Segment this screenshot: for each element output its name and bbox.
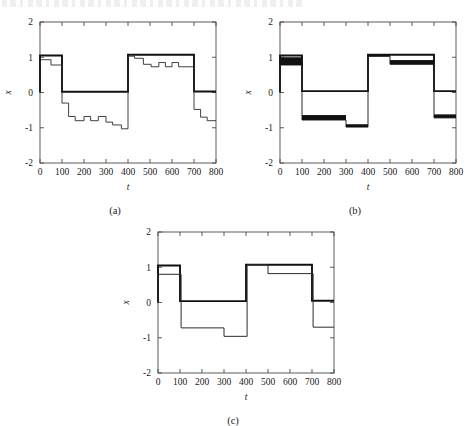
subplot-a: 0100200300400500600700800-2-1012tx(a) xyxy=(0,8,230,203)
x-tick-label: 700 xyxy=(427,167,442,177)
x-tick-label: 400 xyxy=(361,167,376,177)
series-band-segment xyxy=(302,115,346,120)
x-tick-label: 700 xyxy=(187,167,202,177)
y-tick-label: -1 xyxy=(143,333,151,343)
x-tick-label: 600 xyxy=(283,377,298,387)
series-band-segment xyxy=(368,55,390,57)
y-tick-label: 1 xyxy=(268,53,273,63)
x-tick-label: 600 xyxy=(405,167,420,177)
plot-c: 0100200300400500600700800-2-1012tx xyxy=(118,218,348,413)
y-tick-label: 2 xyxy=(28,17,33,27)
series-line-reference xyxy=(158,265,334,303)
x-tick-label: 500 xyxy=(383,167,398,177)
x-tick-label: 0 xyxy=(156,377,161,387)
x-tick-label: 700 xyxy=(305,377,320,387)
x-tick-label: 800 xyxy=(327,377,342,387)
x-tick-label: 200 xyxy=(317,167,332,177)
x-tick-label: 100 xyxy=(173,377,188,387)
x-tick-label: 400 xyxy=(239,377,254,387)
x-tick-label: 200 xyxy=(77,167,92,177)
y-tick-label: 1 xyxy=(28,53,33,63)
y-tick-label: 1 xyxy=(146,263,151,273)
plot-b: 0100200300400500600700800-2-1012tx xyxy=(240,8,470,203)
y-tick-label: -2 xyxy=(25,158,33,168)
x-tick-label: 800 xyxy=(449,167,464,177)
y-axis-label: x xyxy=(3,90,13,96)
y-tick-label: 2 xyxy=(146,227,151,237)
x-axis-label: t xyxy=(367,182,370,192)
y-tick-label: -1 xyxy=(25,123,33,133)
y-tick-label: -1 xyxy=(265,123,273,133)
x-tick-label: 100 xyxy=(55,167,70,177)
y-tick-label: -2 xyxy=(143,368,151,378)
series-band-segment xyxy=(280,57,302,65)
series-band-segment xyxy=(434,114,456,118)
page-bleed-artifact xyxy=(2,0,302,7)
x-tick-label: 300 xyxy=(217,377,232,387)
series-band-segment xyxy=(346,124,368,127)
y-tick-label: 0 xyxy=(146,298,151,308)
x-tick-label: 0 xyxy=(38,167,43,177)
x-tick-label: 800 xyxy=(209,167,224,177)
y-tick-label: -2 xyxy=(265,158,273,168)
subplot-caption-a: (a) xyxy=(0,205,230,216)
x-tick-label: 100 xyxy=(295,167,310,177)
y-tick-label: 0 xyxy=(268,88,273,98)
x-axis-label: t xyxy=(245,392,248,402)
y-axis-label: x xyxy=(243,90,253,96)
subplot-b: 0100200300400500600700800-2-1012tx(b) xyxy=(240,8,470,203)
series-band-segment xyxy=(390,60,434,64)
x-tick-label: 0 xyxy=(278,167,283,177)
x-tick-label: 300 xyxy=(99,167,114,177)
subplot-caption-b: (b) xyxy=(240,205,470,216)
x-tick-label: 400 xyxy=(121,167,136,177)
subplot-caption-c: (c) xyxy=(118,415,348,426)
y-axis-label: x xyxy=(121,300,131,306)
y-tick-label: 2 xyxy=(268,17,273,27)
x-tick-label: 200 xyxy=(195,377,210,387)
x-axis-label: t xyxy=(127,182,130,192)
subplot-c: 0100200300400500600700800-2-1012tx(c) xyxy=(118,218,348,413)
x-tick-label: 600 xyxy=(165,167,180,177)
x-tick-label: 300 xyxy=(339,167,354,177)
plot-a: 0100200300400500600700800-2-1012tx xyxy=(0,8,230,203)
x-tick-label: 500 xyxy=(261,377,276,387)
plot-frame xyxy=(158,232,334,373)
x-tick-label: 500 xyxy=(143,167,158,177)
y-tick-label: 0 xyxy=(28,88,33,98)
